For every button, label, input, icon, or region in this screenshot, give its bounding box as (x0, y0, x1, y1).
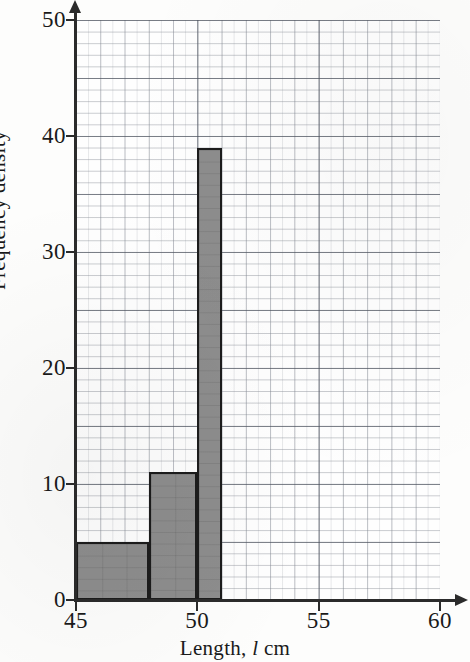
x-axis-arrow-icon (455, 594, 468, 606)
y-axis-title: Frequency density (0, 0, 11, 290)
grid-major (76, 20, 440, 600)
x-axis-tick-label: 55 (289, 609, 349, 632)
x-axis-tick-label: 45 (46, 609, 106, 632)
x-axis-tick-label: 60 (410, 609, 470, 632)
y-axis-tick (66, 367, 77, 369)
x-axis-title-prefix: Length, (180, 636, 247, 660)
x-axis-tick-label: 50 (167, 609, 227, 632)
y-axis-tick-label: 20 (6, 356, 66, 379)
histogram-figure: 01020304050 45505560 Frequency density L… (0, 0, 470, 662)
x-axis-title: Length, l cm (0, 636, 470, 661)
y-axis-tick-label: 0 (6, 588, 66, 611)
y-axis-tick (66, 135, 77, 137)
y-axis-tick (66, 19, 77, 21)
y-axis-tick-label: 10 (6, 472, 66, 495)
y-axis-line (74, 8, 77, 602)
y-axis-tick-label: 40 (6, 124, 66, 147)
y-axis-tick-label: 30 (6, 240, 66, 263)
x-axis-line (76, 599, 462, 602)
x-axis-title-suffix: cm (264, 636, 290, 660)
y-axis-tick (66, 483, 77, 485)
histogram-bar (149, 472, 198, 600)
histogram-bar (76, 542, 149, 600)
y-axis-tick (66, 251, 77, 253)
histogram-bar (197, 148, 221, 600)
plot-area (76, 20, 440, 600)
y-axis-tick-label: 50 (6, 8, 66, 31)
x-axis-title-variable: l (252, 636, 258, 660)
y-axis-arrow-icon (69, 0, 81, 13)
